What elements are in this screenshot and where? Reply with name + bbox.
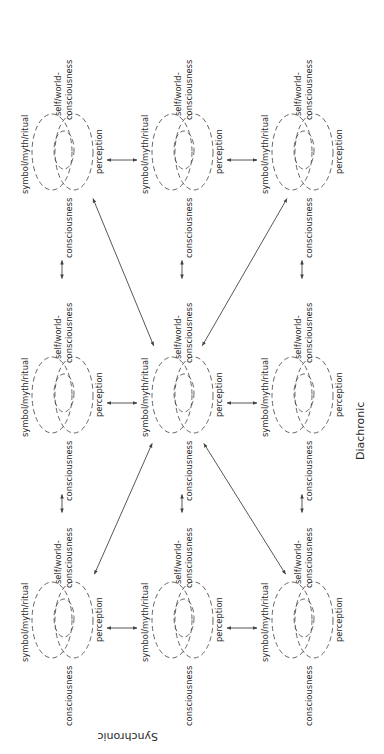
label-self-world-1: self/world- xyxy=(53,315,63,359)
label-consciousness: consciousness xyxy=(184,441,194,501)
cluster-r0c2: symbol/myth/ritual self/world- conscious… xyxy=(260,60,344,258)
ellipse-symbol xyxy=(152,114,192,190)
label-self-world-2: consciousness xyxy=(304,303,314,363)
label-self-world-1: self/world- xyxy=(173,540,183,584)
label-consciousness: consciousness xyxy=(184,666,194,726)
label-perception: perception xyxy=(334,372,344,417)
cluster-r2c0: symbol/myth/ritual self/world- conscious… xyxy=(20,528,104,726)
label-symbol: symbol/myth/ritual xyxy=(140,358,150,437)
label-consciousness: consciousness xyxy=(304,666,314,726)
cluster-r1c0: symbol/myth/ritual self/world- conscious… xyxy=(20,303,104,501)
label-symbol: symbol/myth/ritual xyxy=(260,115,270,194)
diagonal-double-arrow-icon xyxy=(93,199,154,346)
label-self-world-2: consciousness xyxy=(64,60,74,120)
label-self-world-1: self/world- xyxy=(53,72,63,116)
label-self-world-1: self/world- xyxy=(293,540,303,584)
label-self-world-1: self/world- xyxy=(53,540,63,584)
ellipse-symbol xyxy=(32,582,72,658)
label-perception: perception xyxy=(334,129,344,174)
label-consciousness: consciousness xyxy=(184,198,194,258)
label-symbol: symbol/myth/ritual xyxy=(20,115,30,194)
cluster-r0c0: symbol/myth/ritual self/world- conscious… xyxy=(20,60,104,258)
axis-label-diachronic: Diachronic xyxy=(354,402,367,460)
cluster-r2c1: symbol/myth/ritual self/world- conscious… xyxy=(140,528,224,726)
cluster-r2c2: symbol/myth/ritual self/world- conscious… xyxy=(260,528,344,726)
label-symbol: symbol/myth/ritual xyxy=(140,115,150,194)
label-symbol: symbol/myth/ritual xyxy=(260,358,270,437)
cluster-r1c2: symbol/myth/ritual self/world- conscious… xyxy=(260,303,344,501)
label-self-world-2: consciousness xyxy=(64,528,74,588)
label-perception: perception xyxy=(214,372,224,417)
label-self-world-2: consciousness xyxy=(304,528,314,588)
ellipse-symbol xyxy=(152,357,192,433)
diagonal-double-arrow-icon xyxy=(204,444,286,575)
label-consciousness: consciousness xyxy=(64,198,74,258)
label-perception: perception xyxy=(94,372,104,417)
ellipse-symbol xyxy=(152,582,192,658)
diagonal-double-arrow-icon xyxy=(94,444,152,575)
label-self-world-2: consciousness xyxy=(184,60,194,120)
label-consciousness: consciousness xyxy=(304,441,314,501)
label-self-world-2: consciousness xyxy=(64,303,74,363)
ellipse-symbol xyxy=(272,582,312,658)
cluster-r0c1: symbol/myth/ritual self/world- conscious… xyxy=(140,60,224,258)
ellipse-symbol xyxy=(272,114,312,190)
label-symbol: symbol/myth/ritual xyxy=(20,583,30,662)
label-self-world-2: consciousness xyxy=(184,528,194,588)
ellipse-symbol xyxy=(32,357,72,433)
label-self-world-1: self/world- xyxy=(173,72,183,116)
label-perception: perception xyxy=(334,597,344,642)
diagonal-double-arrow-icon xyxy=(202,199,287,346)
label-symbol: symbol/myth/ritual xyxy=(20,358,30,437)
cluster-grid: symbol/myth/ritual self/world- conscious… xyxy=(20,60,344,726)
ellipse-symbol xyxy=(32,114,72,190)
label-symbol: symbol/myth/ritual xyxy=(140,583,150,662)
ellipse-symbol xyxy=(272,357,312,433)
label-perception: perception xyxy=(94,129,104,174)
label-self-world-1: self/world- xyxy=(293,72,303,116)
label-self-world-2: consciousness xyxy=(304,60,314,120)
label-symbol: symbol/myth/ritual xyxy=(260,583,270,662)
label-consciousness: consciousness xyxy=(304,198,314,258)
label-consciousness: consciousness xyxy=(64,441,74,501)
label-self-world-1: self/world- xyxy=(293,315,303,359)
label-self-world-2: consciousness xyxy=(184,303,194,363)
label-perception: perception xyxy=(214,597,224,642)
label-consciousness: consciousness xyxy=(64,666,74,726)
cluster-r1c1: symbol/myth/ritual self/world- conscious… xyxy=(140,303,224,501)
label-perception: perception xyxy=(214,129,224,174)
label-perception: perception xyxy=(94,597,104,642)
label-self-world-1: self/world- xyxy=(173,315,183,359)
axis-label-synchronic: Synchronic xyxy=(97,730,158,743)
diagram-canvas: symbol/myth/ritual self/world- conscious… xyxy=(0,0,384,754)
